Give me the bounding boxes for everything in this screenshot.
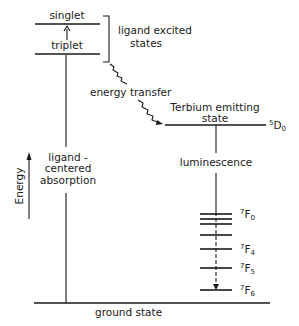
level-7f0-label: 7F0 <box>240 208 255 222</box>
ground-state-label: ground state <box>95 306 162 318</box>
absorption-label-3: absorption <box>40 174 96 186</box>
triplet-label: triplet <box>51 39 83 51</box>
level-5d0-label: 5D0 <box>269 119 286 133</box>
level-7f5-label: 7F5 <box>240 262 255 276</box>
energy-level-diagram: singlet triplet ligand excited states en… <box>0 0 299 326</box>
luminescence-label: luminescence <box>180 156 252 168</box>
energy-transfer-label: energy transfer <box>90 86 172 98</box>
level-7f6-label: 7F6 <box>240 284 256 298</box>
energy-transfer-wave-1 <box>110 64 127 84</box>
arrow-head-icon <box>156 120 163 125</box>
ligand-states-bracket <box>103 16 109 62</box>
arrow-head-icon <box>213 284 219 290</box>
energy-axis-label: Energy <box>13 168 25 205</box>
singlet-label: singlet <box>49 9 84 21</box>
absorption-label-2: centered <box>45 162 92 174</box>
arrow-up-icon <box>27 152 32 160</box>
energy-transfer-wave-2 <box>138 100 160 123</box>
ligand-excited-label: ligand excited <box>118 24 192 36</box>
terbium-state-label: state <box>202 112 229 124</box>
level-7f4-label: 7F4 <box>240 243 256 257</box>
states-label: states <box>130 37 162 49</box>
